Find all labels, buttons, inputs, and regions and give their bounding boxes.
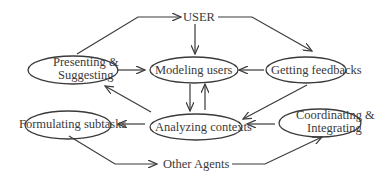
node-formulating: Formulating subtasks (19, 111, 126, 139)
edge-analyzing-to-presenting (105, 86, 151, 112)
edge-user-to-feedback (218, 17, 312, 51)
node-coordinating-line2: Integrating (307, 121, 363, 135)
node-analyzing-label: Analyzing contexts (155, 120, 252, 134)
node-formulating-label: Formulating subtasks (19, 117, 126, 131)
edges (69, 17, 322, 164)
node-analyzing: Analyzing contexts (150, 114, 252, 140)
node-agents-label: Other Agents (163, 157, 229, 171)
node-feedback: Getting feedbacks (266, 57, 362, 83)
edge-agents-to-coordinating (232, 137, 322, 164)
node-modeling-label: Modeling users (155, 63, 233, 77)
node-modeling: Modeling users (150, 57, 238, 83)
node-user-label: USER (183, 10, 216, 24)
node-agents: Other Agents (163, 157, 229, 171)
node-feedback-label: Getting feedbacks (271, 63, 362, 77)
node-presenting-line1: Presenting & (53, 55, 119, 69)
node-presenting-line2: Suggesting (58, 68, 114, 82)
node-coordinating-line1: Coordinating & (296, 108, 375, 122)
node-presenting: Presenting & Suggesting (28, 55, 119, 84)
edge-presenting-to-user (77, 17, 181, 54)
node-coordinating: Coordinating & Integrating (279, 108, 375, 137)
node-user: USER (183, 10, 216, 24)
edge-formulating-to-agents (69, 136, 157, 164)
agent-flow-diagram: USER Presenting & Suggesting Modeling us… (0, 0, 386, 180)
